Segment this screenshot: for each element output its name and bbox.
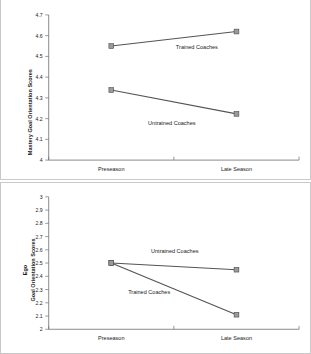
y-tick-label: 2.1 (36, 313, 43, 319)
data-point-marker (109, 261, 114, 266)
y-tick-label: 2.3 (36, 287, 43, 293)
y-tick-label: 2.4 (36, 273, 43, 279)
series-trained-coaches-mastery: Trained Coaches (109, 29, 239, 50)
data-point-marker (234, 29, 239, 34)
x-ticks-mastery (49, 157, 299, 160)
data-point-marker (234, 111, 239, 116)
chart-panel-mastery: Mastery Goal Orientation Scores 4.7 4.6 … (0, 0, 311, 180)
mastery-goal-orientation-chart: Mastery Goal Orientation Scores 4.7 4.6 … (1, 0, 310, 179)
x-ticks-ego (49, 326, 299, 329)
y-tick-label: 4 (40, 157, 43, 163)
x-category-label-late-season: Late Season (221, 335, 252, 341)
series-untrained-coaches-mastery: Untrained Coaches (109, 88, 239, 127)
series-untrained-coaches-ego: Untrained Coaches (109, 248, 239, 272)
y-tick-label: 2.2 (36, 300, 43, 306)
y-tick-label: 2.5 (36, 260, 43, 266)
series-annotation-trained-coaches: Trained Coaches (128, 289, 170, 295)
figure-page: Mastery Goal Orientation Scores 4.7 4.6 … (0, 0, 311, 354)
ego-goal-orientation-chart: Ego Goal Orientation Scores 3 2.9 2.8 2.… (1, 183, 310, 353)
y-tick-label: 4.3 (36, 95, 43, 101)
y-axis-label-ego-line1: Ego (22, 264, 28, 275)
data-point-marker (234, 312, 239, 317)
x-category-label-preseason: Preseason (98, 335, 125, 341)
x-category-label-late-season: Late Season (221, 166, 252, 172)
y-tick-label: 4.5 (36, 53, 43, 59)
y-tick-label: 2.8 (36, 220, 43, 226)
series-annotation-trained-coaches: Trained Coaches (176, 44, 218, 50)
y-tick-label: 2.6 (36, 247, 43, 253)
series-annotation-untrained-coaches: Untrained Coaches (151, 248, 199, 254)
y-tick-label: 2 (40, 326, 43, 332)
series-annotation-untrained-coaches: Untrained Coaches (148, 120, 196, 126)
y-axis-label-mastery: Mastery Goal Orientation Scores (27, 69, 33, 155)
y-tick-label: 3 (40, 194, 43, 200)
data-point-marker (109, 44, 114, 49)
y-tick-label: 2.9 (36, 207, 43, 213)
y-tick-label: 4.7 (36, 12, 43, 18)
y-tick-label: 4.4 (36, 74, 43, 80)
data-point-marker (234, 267, 239, 272)
y-ticks-mastery: 4.7 4.6 4.5 4.4 4.3 4.2 4.1 4 (36, 12, 49, 163)
y-tick-label: 4.6 (36, 33, 43, 39)
y-tick-label: 4.2 (36, 116, 43, 122)
y-tick-label: 4.1 (36, 136, 43, 142)
chart-panel-ego: Ego Goal Orientation Scores 3 2.9 2.8 2.… (0, 182, 311, 354)
y-ticks-ego: 3 2.9 2.8 2.7 2.6 2.5 2.4 2.3 2.2 2.1 (36, 194, 49, 332)
data-point-marker (109, 88, 114, 93)
x-category-label-preseason: Preseason (98, 166, 125, 172)
y-tick-label: 2.7 (36, 234, 43, 240)
